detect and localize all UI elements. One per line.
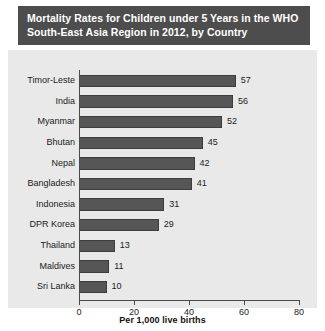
chart-figure: Mortality Rates for Children under 5 Yea… (0, 0, 325, 331)
x-axis-tick (244, 301, 245, 305)
category-label: Bangladesh (27, 177, 75, 190)
bar (79, 137, 203, 149)
bar (79, 95, 233, 107)
x-axis-tick (299, 301, 300, 305)
bar (79, 178, 192, 190)
bar-value-label: 31 (169, 198, 179, 211)
bar-value-label: 52 (227, 115, 237, 128)
bar-value-label: 56 (238, 95, 248, 108)
bar-row: 29 (79, 216, 299, 237)
bar-row: 31 (79, 196, 299, 217)
bar (79, 260, 109, 272)
plot-panel: Timor-LesteIndiaMyanmarBhutanNepalBangla… (8, 50, 317, 308)
bar-row: 11 (79, 258, 299, 279)
bar-row: 45 (79, 134, 299, 155)
category-label: Thailand (40, 239, 75, 252)
bar (79, 219, 159, 231)
category-label: Indonesia (36, 198, 75, 211)
category-label: Nepal (51, 157, 75, 170)
category-label: Maldives (39, 260, 75, 273)
plot-area: 5756524542413129131110 (79, 72, 299, 299)
bar (79, 240, 115, 252)
bar-row: 42 (79, 155, 299, 176)
bar-value-label: 11 (114, 260, 123, 273)
category-label: India (55, 95, 75, 108)
category-label: Myanmar (37, 115, 75, 128)
bar (79, 198, 164, 210)
bar-value-label: 41 (197, 177, 207, 190)
bar (79, 281, 107, 293)
bar-row: 10 (79, 278, 299, 299)
chart-title-banner: Mortality Rates for Children under 5 Yea… (18, 6, 310, 45)
bar-value-label: 42 (200, 157, 210, 170)
y-axis-line (79, 70, 80, 301)
bar-value-label: 13 (120, 239, 130, 252)
chart-title-line-1: Mortality Rates for Children under 5 Yea… (27, 11, 302, 25)
bar-row: 56 (79, 93, 299, 114)
bar-value-label: 10 (112, 280, 122, 293)
category-label: Timor-Leste (27, 74, 75, 87)
bar-row: 41 (79, 175, 299, 196)
bar (79, 157, 195, 169)
category-label: Bhutan (46, 136, 75, 149)
category-label: DPR Korea (29, 218, 75, 231)
x-axis-tick (189, 301, 190, 305)
bar (79, 116, 222, 128)
x-axis-tick (134, 301, 135, 305)
chart-title-line-2: South-East Asia Region in 2012, by Count… (27, 25, 302, 39)
bar-row: 13 (79, 237, 299, 258)
bar-value-label: 57 (241, 74, 251, 87)
bar (79, 75, 236, 87)
x-axis-title: Per 1,000 live births (8, 315, 317, 325)
bar-value-label: 45 (208, 136, 218, 149)
category-label: Sri Lanka (37, 280, 75, 293)
category-axis-labels: Timor-LesteIndiaMyanmarBhutanNepalBangla… (8, 72, 75, 299)
bar-row: 52 (79, 113, 299, 134)
x-axis-tick (79, 301, 80, 305)
bar-value-label: 29 (164, 218, 174, 231)
bar-row: 57 (79, 72, 299, 93)
